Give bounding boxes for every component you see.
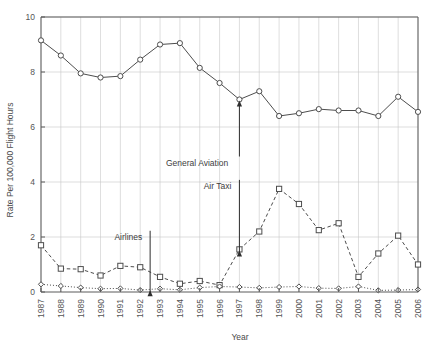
data-point [157,274,162,279]
annotation-label: Airlines [114,232,142,242]
x-tick-label: 2005 [393,299,403,318]
x-tick-label: 1998 [254,299,264,318]
data-point [177,281,182,286]
data-point [376,113,381,118]
data-point [336,221,341,226]
data-point [376,251,381,256]
line-chart: 0246810198719881989199019911992199319941… [0,0,446,347]
x-tick-label: 2003 [353,299,363,318]
data-point [177,41,182,46]
y-axis-title: Rate Per 100,000 Flight Hours [5,103,15,218]
data-point [197,278,202,283]
x-tick-label: 1995 [195,299,205,318]
x-tick-label: 2006 [413,299,423,318]
data-point [78,267,83,272]
x-tick-label: 2000 [294,299,304,318]
data-point [38,38,43,43]
data-point [415,109,420,114]
x-tick-label: 2001 [314,299,324,318]
y-tick-label: 6 [30,122,35,132]
data-point [396,94,401,99]
x-tick-label: 1997 [234,299,244,318]
data-point [277,113,282,118]
data-point [58,266,63,271]
data-point [118,263,123,268]
y-tick-label: 8 [30,67,35,77]
data-point [396,233,401,238]
data-point [415,262,420,267]
y-tick-label: 4 [30,177,35,187]
data-point [38,243,43,248]
x-tick-label: 1996 [215,299,225,318]
annotation-label: General Aviation [166,158,228,168]
x-axis-title: Year [231,332,248,342]
data-point [257,89,262,94]
data-point [217,80,222,85]
x-tick-label: 2004 [373,299,383,318]
x-tick-label: 1989 [76,299,86,318]
x-tick-label: 1992 [135,299,145,318]
x-tick-label: 1993 [155,299,165,318]
annotation-label: Air Taxi [204,181,232,191]
x-tick-label: 1990 [96,299,106,318]
data-point [197,65,202,70]
data-point [356,274,361,279]
data-point [98,75,103,80]
data-point [336,108,341,113]
data-point [98,273,103,278]
data-point [316,107,321,112]
x-tick-label: 1999 [274,299,284,318]
x-tick-label: 1991 [115,299,125,318]
x-tick-label: 2002 [334,299,344,318]
data-point [138,57,143,62]
data-point [277,186,282,191]
x-tick-label: 1988 [56,299,66,318]
data-point [296,111,301,116]
y-tick-label: 0 [30,287,35,297]
data-point [356,108,361,113]
x-tick-label: 1994 [175,299,185,318]
data-point [58,53,63,58]
x-tick-label: 1987 [36,299,46,318]
chart-background [0,0,446,347]
data-point [157,42,162,47]
data-point [138,265,143,270]
y-tick-label: 2 [30,232,35,242]
data-point [78,71,83,76]
data-point [257,229,262,234]
data-point [316,228,321,233]
data-point [118,74,123,79]
data-point [296,201,301,206]
chart-container: 0246810198719881989199019911992199319941… [0,0,446,347]
y-tick-label: 10 [26,12,36,22]
